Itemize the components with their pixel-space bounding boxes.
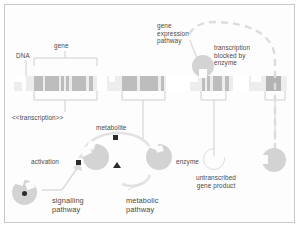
metabolite-marker — [113, 135, 118, 140]
hollow-mouth — [215, 148, 226, 157]
ugp-line-1: untranscribed — [196, 174, 236, 182]
mp-line-2: pathway — [126, 205, 159, 214]
enzyme-mouth — [155, 145, 163, 153]
sp-line-2: pathway — [52, 205, 84, 214]
mp-line-1: metabolic — [126, 196, 159, 205]
blocking-enzyme-mouth — [199, 69, 207, 78]
blocked-gene-product-shape — [262, 148, 286, 172]
transcription-blocked-label: transcription blocked by enzyme — [214, 44, 250, 67]
ugp-line-2: gene product — [196, 182, 236, 190]
gep-line-1: gene — [157, 22, 189, 30]
signalling-marker — [22, 191, 27, 196]
signalling-pathway-label: signalling pathway — [52, 196, 84, 214]
tbe-line-1: transcription — [214, 44, 250, 52]
gep-line-3: pathway — [157, 37, 189, 45]
signalling-notch — [15, 176, 25, 186]
blocking-enzyme-shape — [192, 55, 214, 77]
gene-expression-pathway-label: gene expression pathway — [157, 22, 189, 45]
metabolic-pathway-label: metabolic pathway — [126, 196, 159, 214]
tbe-line-3: enzyme — [214, 59, 250, 67]
enzyme-shape — [146, 144, 172, 170]
untranscribed-gene-product-shape — [203, 148, 225, 170]
sp-line-1: signalling — [52, 196, 84, 205]
diagram-canvas: DNA gene <<transcription>> metabolite ac… — [0, 0, 301, 229]
metabolic-marker — [113, 162, 121, 168]
untranscribed-gene-product-label: untranscribed gene product — [196, 174, 236, 189]
transcription-label: <<transcription>> — [12, 114, 63, 122]
blocked-product-mouth — [259, 155, 268, 164]
gene-product-shape-left — [83, 144, 109, 170]
activation-marker — [76, 160, 81, 165]
gep-line-2: expression — [157, 30, 189, 38]
enzyme-label: enzyme — [176, 158, 199, 166]
metabolite-label: metabolite — [96, 124, 127, 132]
gene-label: gene — [54, 42, 69, 50]
tbe-line-2: blocked by — [214, 52, 250, 60]
activation-label: activation — [31, 158, 59, 166]
dna-label: DNA — [16, 52, 30, 60]
